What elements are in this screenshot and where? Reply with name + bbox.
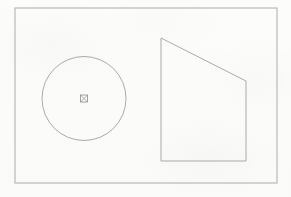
border-rectangle [15, 8, 277, 183]
center-point-marker-icon [81, 95, 88, 102]
diagram-canvas [0, 0, 291, 197]
line-drawing [0, 0, 291, 197]
trapezoid-shape [161, 38, 246, 161]
